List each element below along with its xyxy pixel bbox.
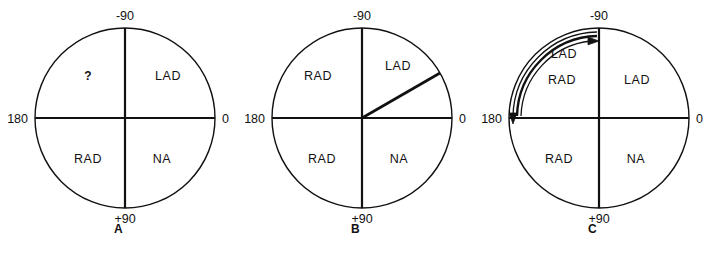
quadrant-label-lower-left: RAD [545,152,573,166]
arc-label-lad: LAD [551,47,577,61]
quadrant-label-upper-right: LAD [385,59,411,73]
axis-label-left: 180 [244,112,265,126]
panel-letter-a: A [0,222,237,236]
axis-label-top: -90 [590,9,608,23]
panel-letter-b: B [237,222,474,236]
mean-axis-vector [362,73,440,118]
quadrant-label-lower-right: NA [153,152,172,166]
panel-b: -90 0 +90 180 RAD LAD RAD NA B [237,0,474,254]
panel-c-diagram: LAD -90 0 +90 180 RAD LAD RAD NA [474,0,711,254]
axis-label-left: 180 [481,112,502,126]
panel-a-diagram: -90 0 +90 180 ? LAD RAD NA [0,0,237,254]
hexaxial-axis-figure: -90 0 +90 180 ? LAD RAD NA A -90 0 +90 1… [0,0,711,254]
arc-inner-arrowhead-icon [588,37,599,45]
quadrant-label-lower-left: RAD [308,152,336,166]
axis-label-right: 0 [459,112,466,126]
quadrant-label-lower-right: NA [390,152,409,166]
panel-letter-c: C [474,222,711,236]
quadrant-label-lower-right: NA [627,152,646,166]
panel-c: LAD -90 0 +90 180 RAD LAD RAD NA C [474,0,711,254]
axis-label-top: -90 [116,9,134,23]
panel-a: -90 0 +90 180 ? LAD RAD NA A [0,0,237,254]
quadrant-label-upper-left: RAD [304,69,332,83]
quadrant-label-lower-left: RAD [74,152,102,166]
panel-b-diagram: -90 0 +90 180 RAD LAD RAD NA [237,0,474,254]
quadrant-label-upper-left: ? [84,69,91,83]
axis-label-top: -90 [353,9,371,23]
axis-label-right: 0 [696,112,703,126]
quadrant-label-upper-right: LAD [155,69,181,83]
axis-label-left: 180 [7,112,28,126]
quadrant-label-upper-right: LAD [624,73,650,87]
axis-label-right: 0 [222,112,229,126]
quadrant-label-upper-left: RAD [548,73,576,87]
